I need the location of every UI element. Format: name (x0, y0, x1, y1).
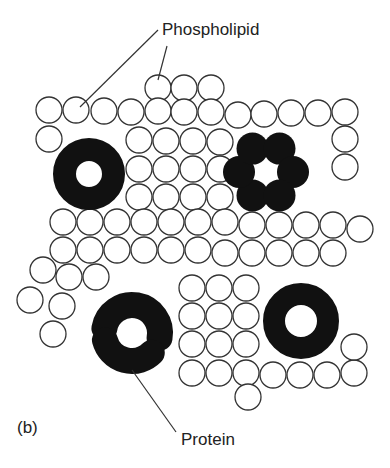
phospholipid (206, 275, 232, 301)
phospholipid (36, 126, 62, 152)
phospholipid (77, 237, 103, 263)
phospholipid (341, 334, 367, 360)
phospholipid (126, 184, 152, 210)
phospholipid (233, 331, 259, 357)
phospholipid (198, 75, 224, 101)
phospholipid (50, 209, 76, 235)
phospholipid (266, 212, 292, 238)
phospholipid (36, 97, 62, 123)
phospholipid (332, 99, 358, 125)
phospholipid (49, 293, 75, 319)
phospholipid (179, 303, 205, 329)
phospholipid-leader-line-2 (158, 46, 167, 80)
phospholipid (153, 128, 179, 154)
phospholipid (239, 212, 265, 238)
phospholipid (332, 154, 358, 180)
phospholipid (347, 216, 373, 242)
phospholipid (260, 362, 286, 388)
phospholipid (91, 98, 117, 124)
phospholipid (158, 237, 184, 263)
phospholipid (118, 99, 144, 125)
phospholipid (198, 99, 224, 125)
phospholipid (185, 237, 211, 263)
phospholipid (235, 384, 261, 410)
phospholipid-layer (17, 75, 373, 410)
phospholipid (206, 331, 232, 357)
phospholipid (207, 129, 233, 155)
phospholipid (293, 212, 319, 238)
phospholipid (77, 209, 103, 235)
phospholipid (158, 209, 184, 235)
phospholipid (171, 75, 197, 101)
phospholipid (17, 287, 43, 313)
phospholipid (233, 275, 259, 301)
phospholipid (30, 257, 56, 283)
phospholipid (180, 156, 206, 182)
protein-label: Protein (181, 430, 235, 450)
phospholipid (40, 321, 66, 347)
protein-hexamer (223, 133, 309, 212)
phospholipid (233, 360, 259, 386)
phospholipid (239, 240, 265, 266)
phospholipid (206, 360, 232, 386)
protein-leader-line (132, 370, 176, 432)
phospholipid (56, 264, 82, 290)
phospholipid (287, 362, 313, 388)
protein-split-ring (104, 305, 160, 361)
phospholipid-label: Phospholipid (162, 20, 259, 40)
phospholipid (278, 100, 304, 126)
phospholipid (207, 184, 233, 210)
phospholipid (206, 303, 232, 329)
phospholipid (305, 100, 331, 126)
phospholipid (212, 240, 238, 266)
phospholipid (104, 237, 130, 263)
phospholipid (251, 101, 277, 127)
phospholipid (341, 360, 367, 386)
phospholipid (233, 303, 259, 329)
phospholipid (266, 240, 292, 266)
phospholipid (126, 127, 152, 153)
protein-ring (65, 150, 114, 199)
phospholipid (179, 360, 205, 386)
phospholipid (332, 126, 358, 152)
phospholipid (180, 128, 206, 154)
phospholipid (131, 209, 157, 235)
phospholipid (153, 156, 179, 182)
phospholipid-leader-line-1 (80, 30, 158, 107)
phospholipid (83, 264, 109, 290)
phospholipid (293, 240, 319, 266)
phospholipid (153, 184, 179, 210)
phospholipid (50, 237, 76, 263)
phospholipid (185, 209, 211, 235)
phospholipid (320, 212, 346, 238)
phospholipid (212, 209, 238, 235)
phospholipid (171, 99, 197, 125)
phospholipid (314, 362, 340, 388)
phospholipid (180, 184, 206, 210)
membrane-diagram (0, 0, 390, 468)
panel-label: (b) (17, 418, 38, 438)
phospholipid (104, 209, 130, 235)
phospholipid (126, 156, 152, 182)
phospholipid (320, 240, 346, 266)
phospholipid (131, 237, 157, 263)
phospholipid (179, 331, 205, 357)
protein-ring (274, 294, 328, 348)
phospholipid (63, 97, 89, 123)
phospholipid (179, 275, 205, 301)
phospholipid (225, 102, 251, 128)
phospholipid (145, 98, 171, 124)
